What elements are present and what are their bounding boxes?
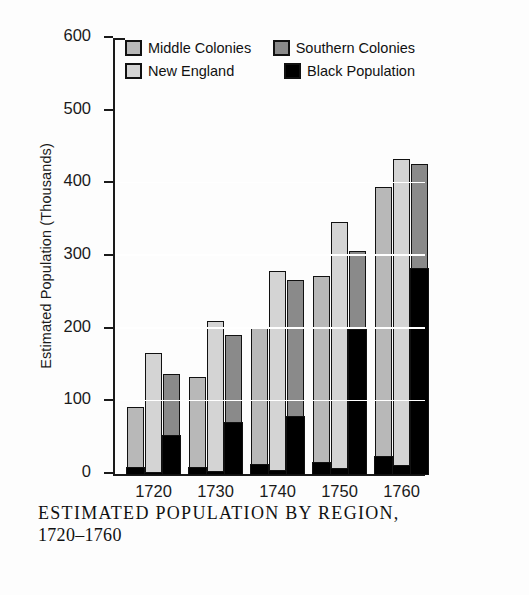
bar-segment-black-population [224,422,242,474]
legend-item-black-population: Black Population [284,63,415,79]
bar-group [251,38,304,474]
bar-segment-black-population [374,456,392,475]
bar [189,377,206,474]
y-axis-tick: 300 [104,254,113,256]
bar [287,280,304,474]
bar-segment-black-population [162,435,180,474]
y-axis-tick-label: 600 [63,26,91,45]
y-axis-tick-label: 300 [63,244,91,263]
y-axis-tick-label: 200 [63,317,91,336]
bar [331,222,348,474]
legend-item-new-england: New England [125,63,284,79]
y-axis-tick: 0 [104,472,113,474]
bar-segment-black-population [268,470,286,475]
x-axis-tick-label: 1740 [259,482,296,501]
y-axis-tick-label: 100 [63,389,91,408]
caption-line-2: 1720–1760 [38,525,508,547]
bar-group [375,38,428,474]
y-axis-tick: 100 [104,399,113,401]
x-axis-tick-label: 1750 [321,482,358,501]
plot-area: 0100200300400500600 17201730174017501760 [113,38,425,476]
figure: Estimated Population (Thousands) 0100200… [0,0,529,595]
legend-swatch-southern-colonies [273,40,290,56]
bar [375,187,392,474]
bar-segment-black-population [250,464,268,474]
figure-caption: ESTIMATED POPULATION BY REGION, 1720–176… [38,503,508,547]
bar [251,327,268,474]
legend-label-middle-colonies: Middle Colonies [148,40,251,56]
bar [269,271,286,474]
bar-group [127,38,180,474]
bar-segment-black-population [206,471,224,475]
bar [127,407,144,474]
y-axis-tick-label: 0 [82,462,91,481]
legend-label-black-population: Black Population [307,63,415,79]
bar-segment-black-population [144,472,162,475]
bar-segment-black-population [286,416,304,474]
bar-segment-black-population [330,468,348,475]
legend: Middle Colonies Southern Colonies New En… [125,40,415,86]
legend-row: New England Black Population [125,63,415,79]
legend-label-southern-colonies: Southern Colonies [296,40,415,56]
legend-item-southern-colonies: Southern Colonies [273,40,415,56]
bar-group [313,38,366,474]
legend-row: Middle Colonies Southern Colonies [125,40,415,56]
bar-segment-black-population [348,329,366,474]
bar-container [115,38,425,474]
bar-segment-black-population [312,462,330,475]
y-axis-tick-label: 400 [63,171,91,190]
bar [393,159,410,474]
bar [145,353,162,474]
x-axis-tick-label: 1760 [383,482,420,501]
y-axis-tick: 500 [104,109,113,111]
y-axis-tick: 400 [104,181,113,183]
legend-label-new-england: New England [148,63,234,79]
legend-item-middle-colonies: Middle Colonies [125,40,273,56]
bar-segment-black-population [188,467,206,475]
caption-line-1: ESTIMATED POPULATION BY REGION, [38,503,508,525]
y-axis-tick-label: 500 [63,99,91,118]
bar [349,251,366,474]
bar [163,374,180,474]
bar [313,276,330,474]
y-axis-tick: 600 [104,36,113,38]
legend-swatch-new-england [125,63,142,79]
bar [225,335,242,474]
legend-swatch-middle-colonies [125,40,142,56]
x-axis-tick-label: 1730 [197,482,234,501]
bar-segment-black-population [410,268,428,475]
bar-group [189,38,242,474]
y-axis-label: Estimated Population (Thousands) [38,106,54,406]
y-axis-tick: 200 [104,327,113,329]
legend-swatch-black-population [284,63,301,79]
bar-segment-black-population [126,467,144,475]
bar [207,321,224,474]
bar-segment-black-population [392,465,410,474]
x-axis-tick-label: 1720 [135,482,172,501]
bar [411,164,428,474]
